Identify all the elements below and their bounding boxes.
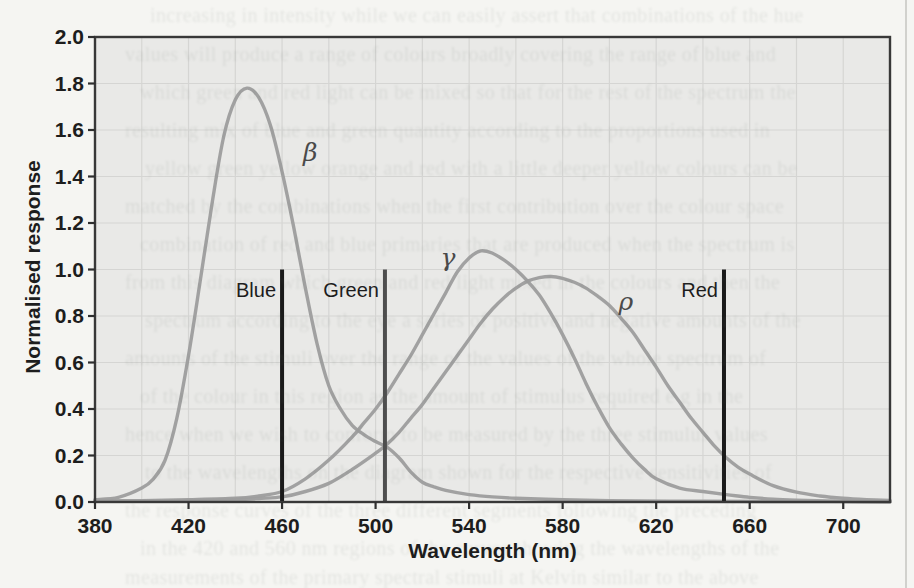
red-primary-label: Red (681, 279, 718, 301)
y-axis-title: Normalised response (21, 160, 45, 374)
x-tick-label: 380 (77, 514, 112, 537)
gamma-cone-response-label: γ (441, 243, 456, 272)
x-tick-label: 620 (639, 514, 674, 537)
blue-primary-label: Blue (236, 279, 276, 301)
cone-spectral-response-chart: BlueGreenRedβγρ3804204605005405806206607… (0, 0, 914, 588)
y-tick-label: 0.4 (55, 397, 85, 420)
y-tick-label: 1.4 (55, 165, 85, 188)
x-axis-title: Wavelength (nm) (95, 539, 890, 563)
y-tick-label: 0.6 (55, 351, 84, 374)
rho-cone-response-label: ρ (617, 287, 633, 316)
x-tick-label: 460 (265, 514, 300, 537)
y-tick-label: 1.2 (55, 211, 84, 234)
y-tick-label: 0.8 (55, 304, 85, 327)
x-tick-label: 660 (732, 514, 767, 537)
beta-cone-response-label: β (302, 138, 317, 167)
x-tick-label: 500 (358, 514, 393, 537)
x-tick-label: 580 (545, 514, 580, 537)
green-primary-label: Green (323, 279, 379, 301)
page-edge-line (905, 0, 907, 588)
y-tick-label: 0.2 (55, 444, 84, 467)
x-tick-label: 700 (826, 514, 861, 537)
scanned-page: increasing in intensity while we can eas… (0, 0, 914, 588)
y-tick-label: 1.8 (55, 72, 85, 95)
y-tick-label: 0.0 (55, 490, 84, 513)
y-tick-label: 1.6 (55, 118, 84, 141)
x-tick-label: 420 (171, 514, 206, 537)
x-tick-label: 540 (452, 514, 487, 537)
y-tick-label: 1.0 (55, 258, 84, 281)
y-tick-label: 2.0 (55, 25, 84, 48)
